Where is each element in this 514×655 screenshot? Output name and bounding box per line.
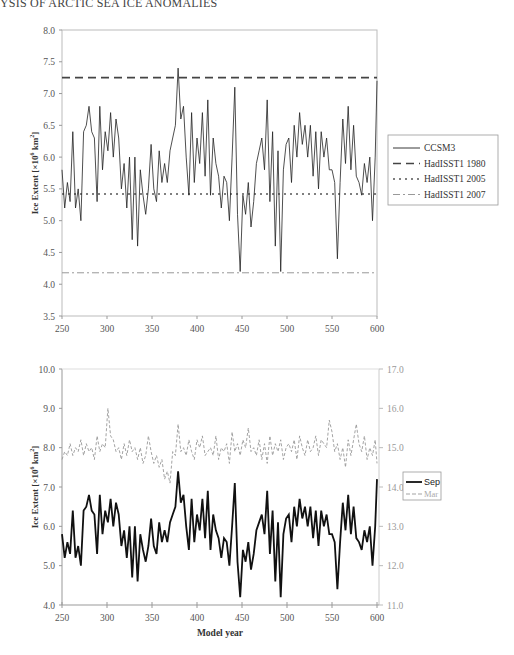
top-reference-lines	[62, 78, 377, 273]
bottom-legend: SepMar	[403, 472, 441, 500]
bottom-x-axis-label: Model year	[197, 628, 244, 638]
legend-label-mar: Mar	[424, 489, 438, 499]
x-tick-label: 550	[325, 324, 340, 334]
y-tick-label: 4.0	[43, 601, 55, 611]
y-tick-label: 5.0	[43, 561, 55, 571]
y-tick-label: 6.5	[43, 121, 55, 131]
legend-label: HadISST1 2007	[424, 190, 486, 200]
legend-label: CCSM3	[424, 143, 455, 153]
sep-line	[62, 471, 377, 597]
mar-line	[62, 408, 377, 483]
bottom-y-axis-label: Ice Extent [×106 km2]	[29, 446, 40, 528]
y-tick-label: 5.0	[43, 216, 55, 226]
y2-tick-label: 15.0	[387, 443, 404, 453]
x-tick-label: 250	[55, 613, 70, 623]
x-tick-label: 350	[145, 324, 160, 334]
y-tick-label: 4.5	[43, 248, 55, 258]
y-tick-label: 7.0	[43, 89, 55, 99]
x-tick-label: 600	[370, 324, 385, 334]
x-tick-label: 300	[100, 613, 115, 623]
ccsm3-line	[62, 68, 377, 271]
x-tick-label: 350	[145, 613, 160, 623]
bottom-right-y-axis: 17.016.015.014.013.012.011.0	[379, 365, 404, 611]
x-tick-label: 400	[190, 324, 205, 334]
bottom-left-y-axis: 10.09.08.07.06.05.04.0	[38, 365, 62, 611]
y-tick-label: 3.5	[43, 312, 55, 322]
x-tick-label: 500	[280, 324, 295, 334]
y-tick-label: 8.0	[43, 443, 55, 453]
y-tick-label: 9.0	[43, 404, 55, 414]
y-tick-label: 10.0	[38, 365, 55, 375]
y2-tick-label: 16.0	[387, 404, 404, 414]
y-tick-label: 7.0	[43, 483, 55, 493]
legend-label-sep: Sep	[424, 477, 440, 487]
y-tick-label: 6.0	[43, 153, 55, 163]
x-tick-label: 550	[325, 613, 340, 623]
bottom-chart: 10.09.08.07.06.05.04.0 17.016.015.014.01…	[29, 365, 441, 639]
top-x-axis: 250300350400450500550600	[55, 316, 385, 334]
x-tick-label: 450	[235, 613, 250, 623]
figure: 8.07.57.06.56.05.55.04.54.03.5 250300350…	[0, 0, 514, 655]
y2-tick-label: 11.0	[387, 601, 404, 611]
x-tick-label: 500	[280, 613, 295, 623]
legend-label: HadISST1 2005	[424, 174, 486, 184]
top-y-axis-label: Ice Extent [×106 km2]	[29, 132, 40, 214]
x-tick-label: 450	[235, 324, 250, 334]
x-tick-label: 300	[100, 324, 115, 334]
y2-tick-label: 13.0	[387, 522, 404, 532]
y2-tick-label: 14.0	[387, 483, 404, 493]
y2-tick-label: 12.0	[387, 561, 404, 571]
legend-label: HadISST1 1980	[424, 159, 486, 169]
top-legend: CCSM3HadISST1 1980HadISST1 2005HadISST1 …	[388, 135, 498, 205]
top-y-axis: 8.07.57.06.56.05.55.04.54.03.5	[43, 26, 62, 322]
x-tick-label: 400	[190, 613, 205, 623]
y2-tick-label: 17.0	[387, 365, 404, 375]
y-tick-label: 5.5	[43, 184, 55, 194]
x-tick-label: 600	[370, 613, 385, 623]
y-tick-label: 7.5	[43, 57, 55, 67]
y-tick-label: 6.0	[43, 522, 55, 532]
top-chart: 8.07.57.06.56.05.55.04.54.03.5 250300350…	[29, 26, 498, 335]
y-tick-label: 4.0	[43, 280, 55, 290]
x-tick-label: 250	[55, 324, 70, 334]
y-tick-label: 8.0	[43, 26, 55, 36]
